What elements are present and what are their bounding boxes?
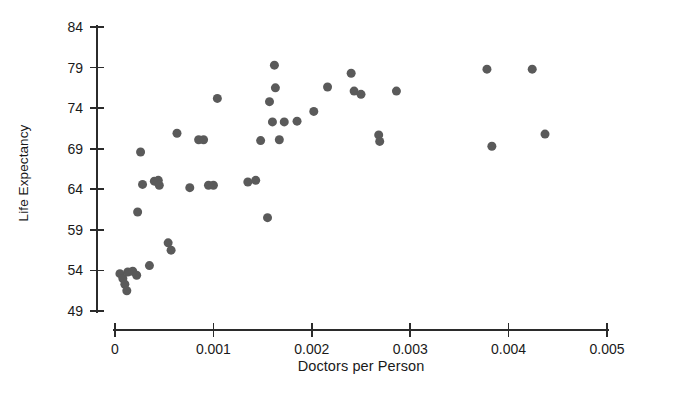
data-point [309, 107, 318, 116]
data-point [275, 135, 284, 144]
data-point [541, 130, 550, 139]
data-point [323, 83, 332, 92]
data-point [209, 181, 218, 190]
x-axis: 00.0010.0020.0030.0040.005 [111, 323, 625, 357]
y-tick-label: 74 [67, 100, 83, 116]
data-point [167, 246, 176, 255]
data-point [132, 271, 141, 280]
data-point [487, 142, 496, 151]
data-point [145, 261, 154, 270]
data-point [375, 137, 384, 146]
data-point [136, 147, 145, 156]
y-axis: 4954596469747984 [67, 19, 104, 319]
data-point [528, 65, 537, 74]
data-point [280, 117, 289, 126]
x-tick-label: 0.004 [491, 341, 526, 357]
x-tick-label: 0.005 [589, 341, 624, 357]
data-point [482, 65, 491, 74]
x-tick-label: 0.003 [393, 341, 428, 357]
data-points-layer [115, 61, 549, 296]
data-point [199, 135, 208, 144]
data-point [243, 177, 252, 186]
y-tick-label: 54 [67, 262, 83, 278]
data-point [155, 181, 164, 190]
data-point [256, 136, 265, 145]
scatter-plot-figure: Life Expectancy Doctors per Person 49545… [0, 0, 689, 410]
plot-canvas: 4954596469747984 00.0010.0020.0030.0040.… [0, 0, 689, 410]
y-tick-label: 64 [67, 181, 83, 197]
data-point [138, 180, 147, 189]
data-point [265, 97, 274, 106]
y-tick-label: 49 [67, 303, 83, 319]
data-point [268, 117, 277, 126]
data-point [251, 176, 260, 185]
data-point [347, 69, 356, 78]
data-point [293, 117, 302, 126]
x-tick-label: 0.001 [196, 341, 231, 357]
y-tick-label: 69 [67, 141, 83, 157]
y-tick-label: 79 [67, 60, 83, 76]
data-point [122, 286, 131, 295]
data-point [271, 83, 280, 92]
data-point [185, 183, 194, 192]
x-tick-label: 0 [111, 341, 119, 357]
data-point [392, 87, 401, 96]
data-point [172, 129, 181, 138]
data-point [357, 90, 366, 99]
data-point [270, 61, 279, 70]
y-tick-label: 84 [67, 19, 83, 35]
data-point [263, 213, 272, 222]
y-tick-label: 59 [67, 222, 83, 238]
x-tick-label: 0.002 [294, 341, 329, 357]
data-point [133, 208, 142, 217]
data-point [213, 94, 222, 103]
